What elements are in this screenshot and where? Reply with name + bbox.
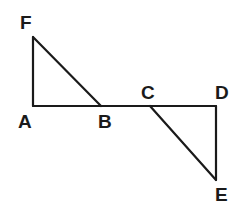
line-segments-group — [33, 37, 216, 180]
segment-CE-hypotenuse — [150, 106, 216, 180]
figure-canvas — [0, 0, 246, 223]
geometry-diagram: F A B C D E — [0, 0, 246, 223]
vertex-label-B: B — [98, 112, 112, 131]
vertex-label-D: D — [215, 83, 229, 102]
vertex-label-A: A — [18, 112, 32, 131]
segment-FB-hypotenuse — [33, 37, 101, 106]
vertex-label-C: C — [141, 83, 155, 102]
vertex-label-E: E — [215, 185, 228, 204]
vertex-label-F: F — [20, 13, 32, 32]
